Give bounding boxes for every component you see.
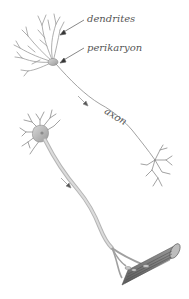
label-dendrites: dendrites (87, 14, 135, 24)
axon-bottom (45, 140, 146, 278)
pointer-arrows (60, 20, 84, 63)
axon-top (56, 64, 172, 186)
neuron-diagram: dendrites perikaryon axon (0, 0, 189, 299)
label-perikaryon: perikaryon (87, 43, 142, 53)
dendrites-top (14, 14, 64, 76)
nucleus (40, 131, 43, 134)
muscle-fiber (122, 242, 182, 285)
